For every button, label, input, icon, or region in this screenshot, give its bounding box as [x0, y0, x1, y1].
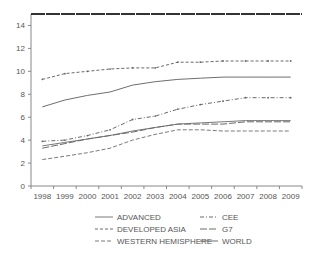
y-tick-label: 2 [21, 159, 26, 168]
legend: ADVANCEDCEEDEVELOPED ASIAG7WESTERN HEMIS… [95, 213, 252, 246]
data-point [177, 108, 179, 110]
x-tick-label: 2006 [214, 192, 232, 201]
x-tick-label: 2007 [237, 192, 255, 201]
legend-label: DEVELOPED ASIA [117, 225, 187, 234]
legend-item: CEE [200, 213, 238, 222]
data-point [154, 115, 156, 117]
x-tick-label: 2002 [124, 192, 142, 201]
data-point [199, 61, 201, 63]
series-cee [41, 97, 291, 142]
series-line [42, 77, 290, 107]
x-tick-label: 1999 [56, 192, 74, 201]
legend-item: G7 [200, 225, 233, 234]
legend-item: DEVELOPED ASIA [95, 225, 187, 234]
x-tick-label: 2009 [282, 192, 300, 201]
data-point [64, 139, 66, 141]
x-tick-label: 2004 [169, 192, 187, 201]
axes: 0246810121419981999200020012002200320042… [16, 14, 302, 201]
data-point [177, 61, 179, 63]
data-point [222, 100, 224, 102]
x-tick-label: 2003 [146, 192, 164, 201]
legend-label: ADVANCED [117, 213, 161, 222]
data-point [87, 70, 89, 72]
x-tick-label: 2008 [259, 192, 277, 201]
data-point [109, 68, 111, 70]
series-layer [41, 60, 291, 159]
legend-label: CEE [222, 213, 238, 222]
series-world [42, 77, 290, 107]
x-tick-label: 2005 [191, 192, 209, 201]
series-advanced [42, 121, 290, 146]
data-point [154, 67, 156, 69]
data-point [267, 97, 269, 99]
legend-label: WESTERN HEMISPHERE [117, 237, 212, 246]
data-point [199, 104, 201, 106]
series-line [42, 130, 290, 160]
data-point [245, 60, 247, 62]
x-tick-label: 2001 [101, 192, 119, 201]
y-tick-label: 12 [16, 44, 25, 53]
data-point [132, 67, 134, 69]
series-western-hemisphere [42, 130, 290, 160]
y-tick-label: 6 [21, 113, 26, 122]
series-line [42, 121, 290, 146]
y-tick-label: 8 [21, 90, 26, 99]
data-point [222, 60, 224, 62]
legend-item: WESTERN HEMISPHERE [95, 237, 212, 246]
data-point [41, 78, 43, 80]
data-point [109, 129, 111, 131]
data-point [132, 119, 134, 121]
x-tick-label: 1998 [33, 192, 51, 201]
data-point [41, 140, 43, 142]
data-point [267, 60, 269, 62]
y-tick-label: 0 [21, 182, 26, 191]
series-line [42, 98, 290, 142]
line-chart: 0246810121419981999200020012002200320042… [0, 0, 323, 267]
data-point [87, 135, 89, 137]
data-point [245, 97, 247, 99]
y-tick-label: 10 [16, 67, 25, 76]
legend-item: ADVANCED [95, 213, 161, 222]
legend-label: G7 [222, 225, 233, 234]
series-g7 [42, 122, 290, 148]
data-point [290, 97, 292, 99]
legend-label: WORLD [222, 237, 252, 246]
series-line [42, 122, 290, 148]
y-tick-label: 14 [16, 21, 25, 30]
data-point [290, 60, 292, 62]
y-tick-label: 4 [21, 136, 26, 145]
data-point [64, 73, 66, 75]
x-tick-label: 2000 [79, 192, 97, 201]
